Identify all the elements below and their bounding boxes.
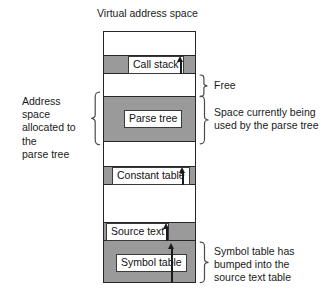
annotation-free: Free [214, 79, 314, 92]
chip-constant-table: Constant table [112, 167, 190, 185]
chip-symbol-table: Symbol table [116, 254, 187, 272]
chip-parse-tree: Parse tree [124, 110, 182, 128]
annotation-symbol-table-bump: Symbol table has bumped into the source … [214, 245, 322, 285]
brace-address-space-allocated [89, 91, 101, 146]
brace-symbol-table-bump [199, 241, 211, 285]
annotation-space-in-use: Space currently being used by the parse … [214, 106, 326, 132]
chip-source-text: Source text [106, 223, 169, 241]
segment-free-gap-3 [104, 185, 195, 222]
annotation-line: source text table [214, 271, 322, 284]
annotation-line: used by the parse tree [214, 119, 326, 132]
annotation-line: Space currently being [214, 106, 326, 119]
virtual-address-space-box: Call stack Parse tree Constant table Sou… [103, 31, 196, 283]
segment-free-gap [104, 74, 195, 96]
segment-free-gap-2 [104, 142, 195, 166]
annotation-line: Free [214, 79, 314, 92]
annotation-line: allocated to the [22, 121, 88, 147]
annotation-line: Address space [22, 95, 88, 121]
annotation-address-space-allocated: Address space allocated to the parse tre… [22, 95, 88, 161]
brace-space-in-use [199, 95, 211, 146]
page-title: Virtual address space [97, 7, 257, 20]
annotation-line: bumped into the [214, 258, 322, 271]
segment-top-free [104, 32, 195, 55]
annotation-line: Symbol table has [214, 245, 322, 258]
diagram-canvas: Virtual address space Address space allo… [0, 0, 330, 299]
chip-call-stack: Call stack [128, 56, 184, 74]
annotation-line: parse tree [22, 148, 88, 161]
